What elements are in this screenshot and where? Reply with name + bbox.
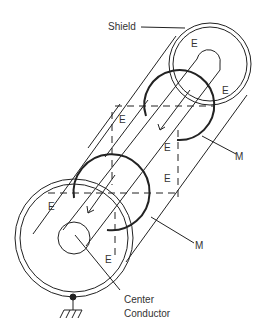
e-field-label: E [164,142,171,153]
far-shield-ring [169,23,251,105]
e-field-label: E [105,254,112,265]
m-leader-2 [151,217,194,243]
e-field-label: E [48,201,55,212]
current-direction-line [88,104,120,148]
ground-symbol [60,294,82,318]
m-label-1: M [235,151,243,162]
center-conductor-label-line1: Center [124,294,155,305]
coax-cable-diagram: Shield M M Center Conductor E E E E E E … [0,0,261,333]
center-conductor-leader [75,235,120,290]
e-field-label: E [164,173,171,184]
current-arrow-upper [158,90,190,130]
e-field-label: E [222,85,229,96]
e-field-label: E [191,38,198,49]
center-conductor-face [58,222,90,254]
m-label-2: M [195,240,203,251]
e-field-label: E [119,114,126,125]
leader-lines [75,27,236,290]
shield-label: Shield [108,21,136,32]
m-leader-1 [202,136,236,154]
center-conductor-label-line2: Conductor [124,308,171,319]
shield-leader [141,27,185,28]
e-field-dashes [48,106,215,260]
magnetic-field-arcs [74,70,215,230]
